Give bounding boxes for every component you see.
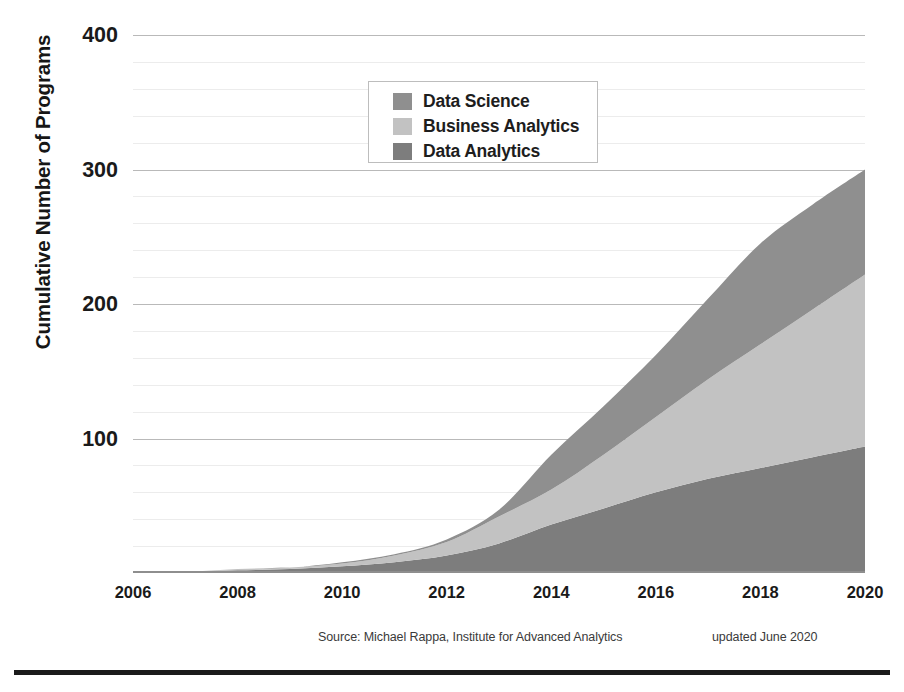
legend-item-data-analytics: Data Analytics bbox=[393, 139, 597, 163]
updated-caption: updated June 2020 bbox=[712, 630, 817, 644]
x-axis-tick-label: 2014 bbox=[491, 583, 611, 602]
x-axis-tick-label: 2020 bbox=[805, 583, 904, 602]
legend-item-data-science: Data Science bbox=[393, 89, 597, 113]
source-caption: Source: Michael Rappa, Institute for Adv… bbox=[318, 630, 622, 644]
y-axis-tick-label: 400 bbox=[14, 23, 118, 48]
legend-label-data-science: Data Science bbox=[423, 91, 530, 112]
x-axis-tick-label: 2006 bbox=[73, 583, 193, 602]
y-axis-title: Cumulative Number of Programs bbox=[31, 0, 55, 427]
x-axis-tick-label: 2018 bbox=[700, 583, 820, 602]
x-axis-tick-label: 2016 bbox=[596, 583, 716, 602]
legend-label-data-analytics: Data Analytics bbox=[423, 141, 540, 162]
x-axis-tick-label: 2012 bbox=[387, 583, 507, 602]
x-axis-tick-label: 2008 bbox=[178, 583, 298, 602]
legend-item-business-analytics: Business Analytics bbox=[393, 114, 597, 138]
y-axis-title-wrapper: Cumulative Number of Programs bbox=[8, 60, 48, 560]
legend-label-business-analytics: Business Analytics bbox=[423, 116, 579, 137]
x-axis-line bbox=[133, 571, 865, 573]
chart-figure: Cumulative Number of Programs 1002003004… bbox=[0, 0, 904, 692]
bottom-rule bbox=[14, 670, 890, 675]
chart-legend: Data Science Business Analytics Data Ana… bbox=[368, 81, 598, 163]
legend-swatch-business-analytics bbox=[393, 118, 412, 135]
x-axis-tick-label: 2010 bbox=[282, 583, 402, 602]
legend-swatch-data-science bbox=[393, 93, 412, 110]
legend-swatch-data-analytics bbox=[393, 143, 412, 160]
